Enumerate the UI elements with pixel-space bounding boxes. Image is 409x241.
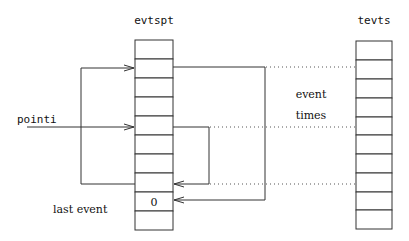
evtspt-cell-3 (135, 78, 173, 97)
tevts-cell-2 (356, 60, 392, 79)
evtspt-cell-10 (135, 211, 173, 230)
right-inner-bracket-arrow (173, 127, 209, 187)
tevts-cell-8 (356, 173, 392, 192)
last-event-label: last event (53, 203, 108, 216)
tevts-label: tevts (357, 14, 390, 27)
pointi-label: pointi (17, 113, 57, 126)
tevts-cell-10 (356, 210, 392, 229)
evtspt-cell-2 (135, 59, 173, 78)
evtspt-cell-8 (135, 173, 173, 192)
times-label: times (296, 109, 327, 122)
evtspt-cell-5 (135, 116, 173, 135)
evtspt-cell-6 (135, 135, 173, 154)
tevts-cell-9 (356, 192, 392, 210)
tevts-cell-6 (356, 135, 392, 154)
tevts-array (356, 41, 392, 229)
evtspt-label: evtspt (134, 14, 174, 27)
tevts-cell-5 (356, 117, 392, 135)
linked-list-diagram: evtspt tevts pointi event times last eve… (0, 0, 409, 241)
evtspt-cell-1 (135, 40, 173, 59)
tevts-cell-3 (356, 79, 392, 98)
evtspt-cell-7 (135, 154, 173, 173)
event-label: event (296, 88, 327, 101)
evtspt-cell-4 (135, 97, 173, 116)
tevts-cell-7 (356, 154, 392, 173)
tevts-cell-4 (356, 98, 392, 117)
evtspt-cell-9-value: 0 (151, 196, 158, 209)
evtspt-array: 0 (135, 40, 173, 230)
tevts-cell-1 (356, 41, 392, 60)
right-outer-bracket-arrow (173, 67, 265, 203)
